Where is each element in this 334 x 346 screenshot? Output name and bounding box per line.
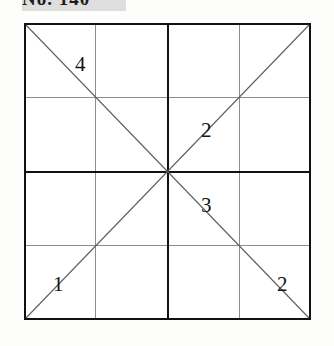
label-lower-right-inner: 3 [201, 195, 212, 216]
label-upper-left: 4 [75, 54, 86, 75]
label-upper-right: 2 [201, 120, 212, 141]
diagonal-lines [24, 23, 311, 320]
figure-caption-band: No. 140 [22, 0, 126, 11]
label-lower-left: 1 [53, 274, 64, 295]
figure-diagram: 4 2 3 1 2 [24, 23, 311, 320]
label-bottom-right: 2 [277, 274, 288, 295]
figure-caption: No. 140 [22, 0, 90, 9]
page-canvas: No. 140 4 2 3 1 2 [0, 0, 334, 346]
